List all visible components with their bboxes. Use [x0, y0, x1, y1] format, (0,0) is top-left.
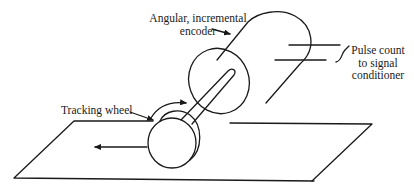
encoder-label-line1: Angular, incremental	[142, 12, 254, 25]
rotation-arrow	[151, 103, 186, 118]
pulse-label-line2: to signal	[343, 57, 413, 70]
encoder-label-line2: encoder	[142, 25, 254, 38]
pulse-label-line1: Pulse count	[343, 44, 413, 57]
tracking-wheel-label: Tracking wheel	[61, 104, 132, 117]
pulse-output-label: Pulse count to signal conditioner	[343, 44, 413, 82]
tracking-wheel	[148, 111, 200, 168]
encoder-label: Angular, incremental encoder	[142, 12, 254, 37]
pulse-label-line3: conditioner	[343, 69, 413, 82]
tracking-wheel-leader-arrow	[130, 112, 153, 120]
signal-wires	[275, 45, 349, 62]
